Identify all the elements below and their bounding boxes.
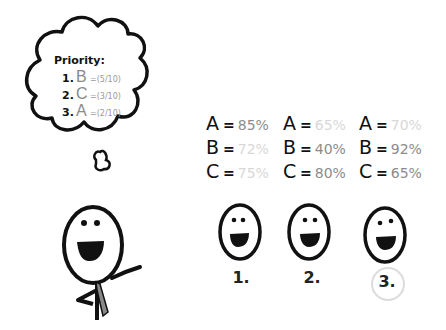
score-row: A=85%: [206, 112, 269, 136]
score-row: B=40%: [283, 136, 346, 160]
score-value: 80%: [315, 165, 346, 181]
priority-item: 3. A =(2/10): [62, 102, 121, 119]
score-row: C=80%: [283, 160, 346, 184]
priority-score: =(5/10): [90, 75, 121, 84]
person-eye-left: [81, 220, 87, 226]
score-value: 72%: [238, 141, 269, 157]
score-letter: B: [283, 136, 298, 158]
score-value: 75%: [238, 165, 269, 181]
score-value: 65%: [315, 117, 346, 133]
priority-title: Priority:: [54, 54, 121, 67]
equals-sign: =: [300, 117, 312, 133]
option-3-scores: A=70% B=92% C=65%: [359, 112, 422, 184]
person-arm-hip: [78, 290, 97, 304]
priority-item: 1. B =(5/10): [62, 68, 121, 85]
option-1-scores: A=85% B=72% C=75%: [206, 112, 269, 184]
score-letter: A: [206, 112, 221, 134]
score-row: A=65%: [283, 112, 346, 136]
priority-letter: B: [76, 68, 88, 86]
score-letter: A: [359, 112, 374, 134]
priority-letter: C: [76, 85, 88, 103]
score-row: C=75%: [206, 160, 269, 184]
priority-letter: A: [76, 102, 88, 120]
equals-sign: =: [376, 117, 388, 133]
priority-score: =(3/10): [90, 92, 121, 101]
thought-bubble-small: [94, 151, 109, 170]
person-eye-right: [94, 220, 100, 226]
score-value: 40%: [315, 141, 346, 157]
score-row: B=92%: [359, 136, 422, 160]
option-2-label: 2.: [292, 268, 332, 287]
score-letter: A: [283, 112, 298, 134]
equals-sign: =: [223, 141, 235, 157]
equals-sign: =: [223, 117, 235, 133]
option-2-scores: A=65% B=40% C=80%: [283, 112, 346, 184]
score-value: 65%: [391, 165, 422, 181]
option-1-label: 1.: [221, 268, 261, 287]
face-option-1: [220, 205, 260, 259]
equals-sign: =: [376, 141, 388, 157]
priority-rank: 3.: [62, 106, 76, 119]
face-option-3: [365, 208, 405, 262]
score-row: C=65%: [359, 160, 422, 184]
score-letter: C: [359, 160, 374, 182]
equals-sign: =: [223, 165, 235, 181]
face-option-2: [289, 205, 329, 259]
priority-list: Priority: 1. B =(5/10) 2. C =(3/10) 3. A…: [54, 54, 121, 119]
priority-rank: 2.: [62, 89, 76, 102]
score-value: 92%: [391, 141, 422, 157]
score-letter: B: [359, 136, 374, 158]
score-letter: C: [206, 160, 221, 182]
score-value: 85%: [238, 117, 269, 133]
equals-sign: =: [300, 141, 312, 157]
score-row: A=70%: [359, 112, 422, 136]
score-value: 70%: [391, 117, 422, 133]
equals-sign: =: [300, 165, 312, 181]
score-row: B=72%: [206, 136, 269, 160]
priority-rank: 1.: [62, 72, 76, 85]
score-letter: B: [206, 136, 221, 158]
score-letter: C: [283, 160, 298, 182]
priority-score: =(2/10): [90, 109, 121, 118]
equals-sign: =: [376, 165, 388, 181]
option-3-label: 3.: [367, 272, 407, 291]
priority-item: 2. C =(3/10): [62, 85, 121, 102]
